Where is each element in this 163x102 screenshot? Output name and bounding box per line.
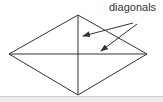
bottom-strip (0, 96, 163, 102)
arrow-to-horizontal-diagonal (101, 24, 137, 51)
rhombus-diagram (0, 0, 163, 102)
arrow-to-vertical-diagonal (83, 23, 133, 36)
